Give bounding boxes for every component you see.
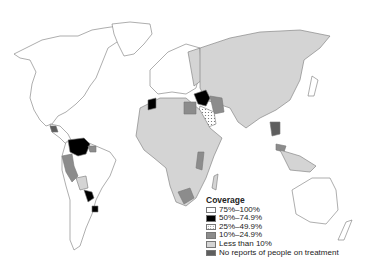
legend-swatch-10-24	[206, 232, 216, 239]
region-north-america	[14, 26, 128, 126]
legend-label: No reports of people on treatment	[219, 249, 339, 258]
region-indonesia	[280, 150, 316, 172]
coverage-legend: Coverage 75%–100% 50%–74.9% 25%–49.9% 10…	[206, 196, 339, 257]
legend-swatch-25-49	[206, 224, 216, 231]
legend-swatch-75-100	[206, 207, 216, 214]
region-thailand-cambodia	[270, 122, 280, 136]
legend-swatch-less-10	[206, 241, 216, 248]
legend-swatch-no-reports	[206, 250, 216, 257]
legend-title: Coverage	[206, 196, 339, 205]
region-asia	[200, 30, 330, 128]
region-madagascar	[212, 174, 218, 190]
region-egypt	[184, 102, 196, 114]
region-japan	[308, 76, 318, 96]
legend-swatch-50-74	[206, 215, 216, 222]
region-morocco	[148, 98, 156, 110]
region-greenland	[112, 22, 152, 56]
legend-item: No reports of people on treatment	[206, 249, 339, 258]
region-new-zealand	[338, 220, 352, 240]
region-uruguay	[92, 206, 98, 212]
